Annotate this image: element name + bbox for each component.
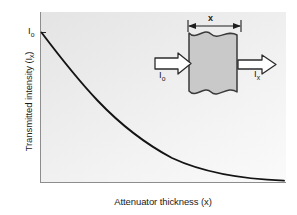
x-axis-label: Attenuator thickness (x) [40, 196, 286, 207]
thickness-dimension-arrow [188, 20, 241, 32]
transmitted-intensity-label: Ix [254, 68, 260, 81]
y-axis-label-base: Transmitted intensity (I [23, 58, 34, 151]
attenuator-slab [189, 32, 237, 94]
y-axis-label: Transmitted intensity (Ix) [23, 21, 36, 181]
inset-graphics [148, 14, 288, 102]
incident-label-subscript: o [162, 75, 166, 82]
y-axis-label-close: ) [23, 52, 34, 55]
transmitted-label-subscript: x [257, 74, 260, 81]
y-axis-label-subscript: x [28, 55, 35, 58]
incident-intensity-label: Io [159, 69, 165, 82]
thickness-label: x [208, 13, 213, 23]
attenuator-inset-diagram: x Io Ix [148, 14, 288, 102]
attenuation-figure: Io Transmitted intensity (Ix) Attenuator… [0, 0, 297, 215]
